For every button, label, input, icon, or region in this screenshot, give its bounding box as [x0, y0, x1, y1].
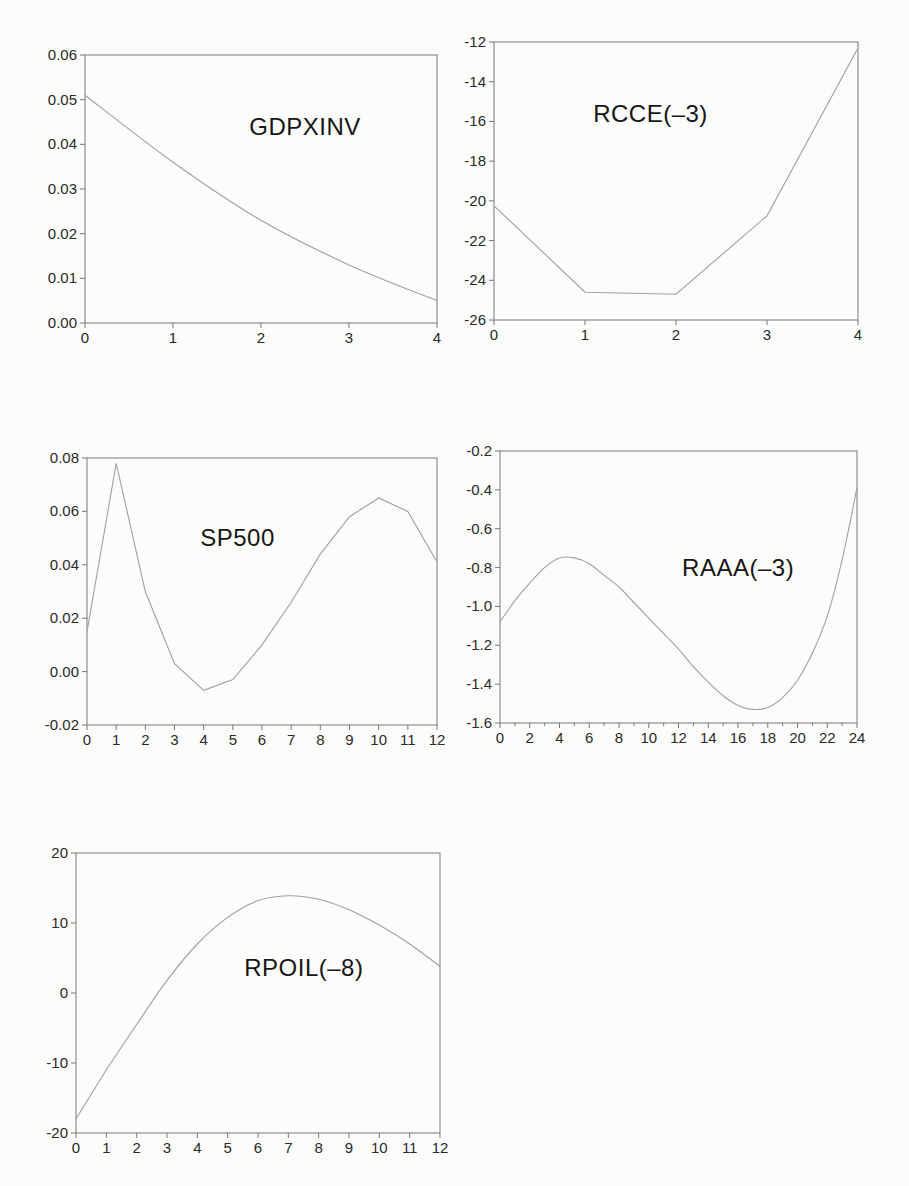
x-tick-label: 6: [585, 729, 593, 746]
x-tick-label: 8: [314, 1139, 322, 1156]
chart-rpoil-minus8: -20-10010200123456789101112RPOIL(–8): [24, 845, 452, 1163]
x-tick-label: 18: [759, 729, 776, 746]
x-tick-label: 2: [132, 1139, 140, 1156]
x-tick-label: 2: [526, 729, 534, 746]
x-tick-label: 2: [672, 326, 680, 343]
x-tick-label: 5: [229, 731, 237, 748]
chart-title: SP500: [200, 524, 275, 551]
data-curve: [494, 48, 858, 294]
y-tick-label: 0.01: [48, 269, 77, 286]
x-tick-label: 1: [112, 731, 120, 748]
y-tick-label: -24: [464, 271, 486, 288]
y-tick-label: -0.02: [45, 716, 79, 733]
y-tick-label: -10: [46, 1054, 68, 1071]
x-tick-label: 0: [490, 326, 498, 343]
plot-frame: [87, 458, 437, 725]
y-tick-label: -0.8: [466, 559, 492, 576]
x-tick-label: 24: [849, 729, 866, 746]
y-tick-label: -1.6: [466, 714, 492, 731]
x-tick-label: 0: [496, 729, 504, 746]
chart-gdpxinv: 0.000.010.020.030.040.050.0601234GDPXINV: [33, 47, 449, 353]
x-tick-label: 3: [163, 1139, 171, 1156]
y-tick-label: 0.00: [50, 663, 79, 680]
y-tick-label: 0.02: [50, 609, 79, 626]
x-tick-label: 2: [257, 329, 265, 346]
y-tick-label: 0.04: [50, 556, 79, 573]
chart-title: RAAA(–3): [682, 554, 794, 581]
x-tick-label: 0: [83, 731, 91, 748]
plot-frame: [494, 42, 858, 320]
y-tick-label: 0.03: [48, 180, 77, 197]
x-tick-label: 10: [370, 731, 387, 748]
x-tick-label: 8: [615, 729, 623, 746]
y-tick-label: -1.2: [466, 636, 492, 653]
y-tick-label: 10: [51, 914, 68, 931]
y-tick-label: 0.02: [48, 225, 77, 242]
x-tick-label: 1: [169, 329, 177, 346]
plot-frame: [76, 853, 440, 1133]
x-tick-label: 1: [581, 326, 589, 343]
y-tick-label: -1.4: [466, 675, 492, 692]
y-tick-label: -20: [464, 192, 486, 209]
y-tick-label: -0.4: [466, 481, 492, 498]
x-tick-label: 4: [199, 731, 207, 748]
x-tick-label: 7: [284, 1139, 292, 1156]
y-tick-label: 0.00: [48, 314, 77, 331]
x-tick-label: 9: [345, 731, 353, 748]
x-tick-label: 10: [371, 1139, 388, 1156]
x-tick-label: 5: [223, 1139, 231, 1156]
x-tick-label: 12: [670, 729, 687, 746]
y-tick-label: -0.2: [466, 443, 492, 459]
y-tick-label: 20: [51, 845, 68, 861]
plot-svg: -26-24-22-20-18-16-14-1201234RCCE(–3): [442, 34, 870, 350]
x-tick-label: 4: [854, 326, 862, 343]
y-tick-label: -22: [464, 232, 486, 249]
x-tick-label: 3: [763, 326, 771, 343]
x-tick-label: 4: [555, 729, 563, 746]
chart-title: RCCE(–3): [593, 100, 708, 127]
y-tick-label: -12: [464, 34, 486, 50]
x-tick-label: 20: [789, 729, 806, 746]
chart-title: RPOIL(–8): [244, 954, 363, 981]
plot-svg: -1.6-1.4-1.2-1.0-0.8-0.6-0.4-0.202468101…: [448, 443, 869, 753]
x-tick-label: 11: [400, 731, 416, 748]
x-tick-label: 22: [819, 729, 836, 746]
y-tick-label: -14: [464, 73, 486, 90]
x-tick-label: 0: [81, 329, 89, 346]
x-tick-label: 6: [258, 731, 266, 748]
y-tick-label: 0: [60, 984, 68, 1001]
x-tick-label: 16: [730, 729, 747, 746]
chart-sp500: -0.020.000.020.040.060.08012345678910111…: [35, 450, 449, 755]
y-tick-label: -26: [464, 311, 486, 328]
x-tick-label: 9: [345, 1139, 353, 1156]
y-tick-label: 0.05: [48, 91, 77, 108]
x-tick-label: 6: [254, 1139, 262, 1156]
y-tick-label: -18: [464, 152, 486, 169]
plot-frame: [500, 451, 857, 723]
y-tick-label: -20: [46, 1124, 68, 1141]
x-tick-label: 14: [700, 729, 717, 746]
y-tick-label: 0.08: [50, 450, 79, 466]
chart-rcce-minus3: -26-24-22-20-18-16-14-1201234RCCE(–3): [442, 34, 870, 350]
plot-svg: -20-10010200123456789101112RPOIL(–8): [24, 845, 452, 1163]
x-tick-label: 0: [72, 1139, 80, 1156]
x-tick-label: 3: [170, 731, 178, 748]
x-tick-label: 7: [287, 731, 295, 748]
data-curve: [500, 488, 857, 710]
plot-frame: [85, 55, 437, 323]
x-tick-label: 12: [429, 731, 446, 748]
plot-svg: 0.000.010.020.030.040.050.0601234GDPXINV: [33, 47, 449, 353]
data-curve: [76, 896, 440, 1119]
chart-title: GDPXINV: [249, 113, 361, 140]
y-tick-label: 0.06: [50, 502, 79, 519]
x-tick-label: 10: [640, 729, 657, 746]
x-tick-label: 4: [433, 329, 441, 346]
x-tick-label: 11: [402, 1139, 418, 1156]
y-tick-label: -1.0: [466, 597, 492, 614]
x-tick-label: 3: [345, 329, 353, 346]
scanned-figure-page: 0.000.010.020.030.040.050.0601234GDPXINV…: [0, 0, 909, 1186]
x-tick-label: 1: [102, 1139, 110, 1156]
y-tick-label: -0.6: [466, 520, 492, 537]
data-curve: [87, 463, 437, 690]
y-tick-label: 0.04: [48, 135, 77, 152]
